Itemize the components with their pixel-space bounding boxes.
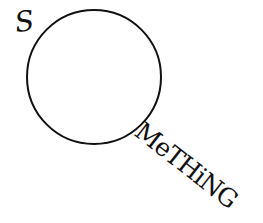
logo-letter-s: S (13, 7, 36, 37)
something-logo: S MeTHiNG (0, 0, 263, 223)
logo-tail-text: MeTHiNG (131, 118, 242, 213)
